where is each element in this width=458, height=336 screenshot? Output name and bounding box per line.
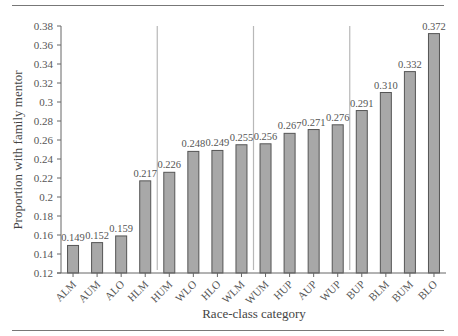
bar-alm	[68, 245, 79, 273]
value-label: 0.271	[302, 117, 326, 128]
value-label: 0.372	[422, 21, 446, 32]
x-tick-label: AUM	[76, 278, 103, 305]
value-label: 0.256	[254, 131, 278, 142]
x-tick-label: HLO	[198, 278, 223, 303]
value-label: 0.248	[182, 138, 206, 149]
y-tick-label: 0.28	[34, 115, 54, 127]
bar-hlm	[140, 181, 151, 273]
bar-hup	[284, 133, 295, 273]
x-tick-label: ALM	[53, 278, 79, 304]
y-tick-label: 0.34	[34, 58, 54, 70]
bar-bup	[356, 111, 367, 273]
x-axis: ALMAUMALOHLMHUMWLOHLOWLMWUMHUPAUPWUPBUPB…	[53, 273, 446, 306]
x-tick-label: BLM	[366, 278, 391, 303]
bar-alo	[116, 236, 127, 273]
y-tick-label: 0.12	[34, 267, 53, 279]
x-tick-label: HUP	[271, 278, 295, 302]
x-tick-label: ALO	[102, 278, 127, 303]
x-tick-label: BUM	[389, 278, 415, 304]
value-label: 0.267	[278, 120, 302, 131]
bar-wlo	[188, 151, 199, 273]
value-label: 0.249	[206, 137, 230, 148]
value-label: 0.310	[374, 80, 398, 91]
y-tick-label: 0.18	[34, 210, 54, 222]
bar-aum	[92, 243, 103, 273]
bar-chart: 0.1490.1520.1590.2170.2260.2480.2490.255…	[0, 0, 458, 336]
x-tick-label: AUP	[295, 278, 319, 302]
y-tick-label: 0.22	[34, 172, 53, 184]
bar-hum	[164, 172, 175, 273]
y-axis: 0.120.140.160.180.20.220.240.260.280.30.…	[34, 20, 61, 279]
y-tick-label: 0.2	[39, 191, 53, 203]
x-tick-label: HLM	[125, 278, 151, 304]
x-tick-label: HUM	[148, 278, 175, 305]
x-tick-label: BLO	[415, 278, 439, 302]
value-label: 0.217	[133, 168, 157, 179]
bar-blo	[428, 34, 439, 273]
bar-wup	[332, 125, 343, 273]
y-tick-label: 0.14	[34, 248, 54, 260]
x-tick-label: WLM	[219, 278, 247, 306]
value-label: 0.152	[85, 230, 109, 241]
x-tick-label: BUP	[344, 278, 368, 302]
value-label: 0.159	[109, 223, 133, 234]
value-label: 0.226	[157, 159, 181, 170]
y-tick-label: 0.16	[34, 229, 54, 241]
bar-aup	[308, 130, 319, 273]
value-label: 0.332	[398, 59, 422, 70]
value-label: 0.291	[350, 98, 374, 109]
bar-wlm	[236, 145, 247, 273]
value-label: 0.149	[61, 232, 85, 243]
y-tick-label: 0.32	[34, 77, 53, 89]
bar-bum	[404, 72, 415, 273]
y-tick-label: 0.3	[39, 96, 53, 108]
x-tick-label: WUM	[243, 278, 272, 307]
y-tick-label: 0.26	[34, 134, 54, 146]
y-tick-label: 0.38	[34, 20, 54, 32]
bar-wum	[260, 144, 271, 273]
value-label: 0.276	[326, 112, 350, 123]
value-label: 0.255	[230, 132, 254, 143]
x-axis-title: Race-class category	[202, 306, 306, 321]
y-tick-label: 0.24	[34, 153, 54, 165]
bar-blm	[380, 93, 391, 274]
y-tick-label: 0.36	[34, 39, 54, 51]
y-axis-title: Proportion with family mentor	[10, 70, 25, 230]
x-tick-label: WUP	[317, 278, 343, 304]
x-tick-label: WLO	[173, 278, 199, 304]
bar-hlo	[212, 150, 223, 273]
